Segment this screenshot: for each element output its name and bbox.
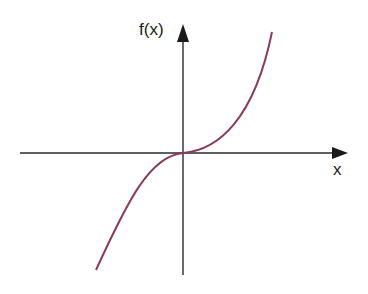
x-axis-arrow-icon [332,147,348,159]
y-axis-arrow-icon [177,24,189,42]
cubic-curve [96,32,272,270]
x-axis-label: x [333,160,342,180]
y-axis-label: f(x) [139,20,164,40]
graph-canvas [0,0,368,294]
y-axis [177,24,189,275]
